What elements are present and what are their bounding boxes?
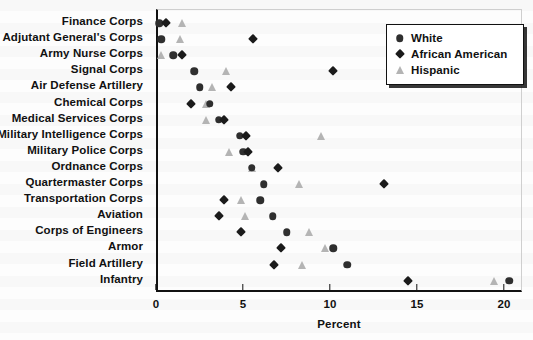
circle-icon [394,33,405,44]
x-tick [503,284,504,290]
category-label-chemical-corps: Chemical Corps [54,94,143,110]
data-point [330,245,338,253]
category-label-military-intelligence-corps: Military Intelligence Corps [0,126,143,142]
data-point [186,98,196,108]
data-point [226,82,236,92]
legend-label: Hispanic [411,64,460,76]
x-tick [416,284,417,290]
category-axis-labels: Finance CorpsAdjutant General's CorpsArm… [0,8,148,282]
data-point [257,196,265,204]
data-point [298,261,306,269]
data-point [196,84,204,92]
category-label-field-artillery: Field Artillery [68,255,143,271]
data-point [505,277,513,285]
category-label-army-nurse-corps: Army Nurse Corps [40,45,143,61]
data-point [237,196,245,204]
data-point [202,116,210,124]
data-point [248,34,258,44]
triangle-icon [394,65,405,76]
category-label-armor: Armor [108,238,143,254]
x-tick [329,284,330,290]
data-point [176,35,184,43]
data-point [177,50,187,60]
data-point [170,52,178,60]
data-point [283,229,291,237]
data-point [295,180,303,188]
category-label-transportation-corps: Transportation Corps [24,190,143,206]
category-label-aviation: Aviation [97,206,143,222]
data-point [191,68,199,76]
category-label-medical-services-corps: Medical Services Corps [12,110,143,126]
data-point [208,83,216,91]
dot-plot-chart: Finance CorpsAdjutant General's CorpsArm… [0,0,533,340]
category-label-ordnance-corps: Ordnance Corps [51,158,143,174]
data-point [206,100,214,108]
data-point [269,213,277,221]
data-point [379,179,389,189]
data-point [222,67,230,75]
category-label-adjutant-general-s-corps: Adjutant General's Corps [2,29,143,45]
data-point [214,211,224,221]
data-point [317,132,325,140]
category-label-military-police-corps: Military Police Corps [27,142,143,158]
data-point [276,243,286,253]
legend-item-african-american[interactable]: African American [394,46,517,62]
data-point [328,66,338,76]
category-label-quartermaster-corps: Quartermaster Corps [25,174,143,190]
legend-item-hispanic[interactable]: Hispanic [394,62,517,78]
category-label-signal-corps: Signal Corps [71,61,143,77]
data-point [490,277,498,285]
data-point [241,212,249,220]
data-point [260,180,268,188]
data-point [273,163,283,173]
legend-item-white[interactable]: White [394,30,517,46]
legend-label: African American [411,48,507,60]
x-axis-ticks: 05101520 [156,290,522,298]
category-label-finance-corps: Finance Corps [62,13,143,29]
x-tick-label: 10 [324,298,337,310]
data-point [157,35,165,43]
x-tick [155,284,156,290]
category-label-corps-of-engineers: Corps of Engineers [35,222,143,238]
data-point [236,227,246,237]
data-point [225,148,233,156]
data-point [178,19,186,27]
category-label-air-defense-artillery: Air Defense Artillery [31,77,143,93]
x-tick [242,284,243,290]
data-point [161,18,171,28]
legend: WhiteAfrican AmericanHispanic [386,24,524,85]
diamond-icon [394,49,405,60]
x-tick-label: 5 [240,298,246,310]
data-point [219,195,229,205]
x-tick-label: 0 [153,298,159,310]
category-label-infantry: Infantry [100,271,143,287]
data-point [157,51,165,59]
data-point [321,244,329,252]
data-point [269,259,279,269]
data-point [248,164,256,172]
legend-label: White [411,32,443,44]
x-tick-label: 15 [411,298,424,310]
x-axis-title: Percent [156,318,522,330]
data-point [305,228,313,236]
data-point [344,261,352,269]
data-point [403,276,413,286]
x-tick-label: 20 [498,298,511,310]
data-point [241,131,251,141]
